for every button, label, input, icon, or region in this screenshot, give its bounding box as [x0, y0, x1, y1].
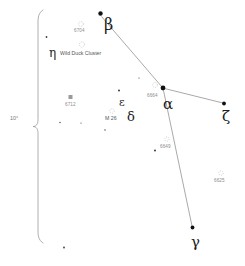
star-chart: βαζγδεη 6704Wild Duck Cluster6712M 26666… — [0, 0, 245, 266]
field-star — [154, 150, 156, 152]
m26-label: M 26 — [105, 116, 117, 121]
field-star — [138, 77, 139, 78]
field-star — [80, 122, 81, 123]
sky-canvas — [0, 0, 245, 266]
star-label-epsilon: ε — [119, 97, 125, 108]
scale-brace — [33, 10, 43, 243]
ngc-6649-label: 6649 — [160, 145, 171, 150]
star-beta — [98, 11, 102, 15]
m26-marker — [110, 109, 115, 114]
star-label-eta: η — [49, 47, 56, 59]
star-label-delta: δ — [127, 110, 135, 123]
field-star-group — [46, 36, 156, 248]
star-label-alpha: α — [163, 97, 173, 112]
field-star — [118, 90, 120, 92]
ngc-6704-label: 6704 — [74, 29, 85, 34]
ngc-6664-label: 6664 — [147, 94, 158, 99]
ngc-6712-label: 6712 — [65, 103, 76, 108]
star-label-gamma: γ — [191, 235, 200, 250]
m11-wild-duck-cluster-marker — [79, 42, 84, 47]
scale-brace-path — [33, 10, 43, 243]
field-star — [104, 129, 105, 130]
ngc-6664-marker — [153, 83, 158, 88]
ngc-6625-marker — [219, 171, 223, 175]
ngc-6704-marker — [79, 22, 84, 27]
deep-sky-object-marker-group — [69, 22, 224, 176]
ngc-6649-marker — [165, 137, 169, 141]
field-star — [46, 36, 48, 38]
star-label-zeta: ζ — [222, 109, 230, 124]
constellation-line-alpha-zeta — [165, 89, 224, 104]
star-zeta — [222, 102, 226, 106]
ngc-6712-marker — [69, 95, 73, 99]
star-alpha — [161, 86, 166, 91]
ngc-6625-label: 6625 — [214, 179, 225, 184]
star-gamma — [191, 226, 195, 230]
scale-bar-label: 10° — [10, 116, 18, 121]
named-star-group — [98, 11, 226, 229]
m11-wild-duck-cluster-label: Wild Duck Cluster — [60, 51, 101, 56]
field-star — [59, 122, 60, 123]
star-label-beta: β — [104, 17, 113, 33]
constellation-line-group — [102, 17, 224, 227]
field-star — [63, 247, 65, 249]
